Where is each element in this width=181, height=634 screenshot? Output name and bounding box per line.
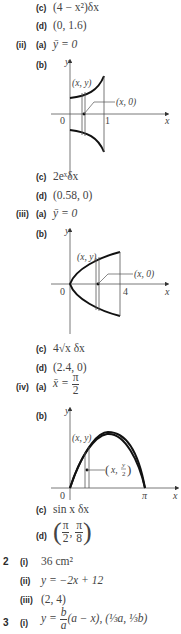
part-a-label: (a) xyxy=(36,382,46,392)
x-axis-label: x xyxy=(164,286,170,297)
graph-parabola-solid: y x 0 4 (x, y) (x, 0) xyxy=(45,224,175,344)
fraction-denominator: 2 xyxy=(72,385,80,397)
question-3-number: 3 xyxy=(3,617,9,628)
part-d-label: (d) xyxy=(36,21,47,31)
fraction-numerator: π xyxy=(75,520,83,533)
question-2-number: 2 xyxy=(3,556,9,567)
part-a-answer: ȳ = 0 xyxy=(53,207,77,219)
point-label: (x, y) xyxy=(77,252,97,263)
origin-label: 0 xyxy=(60,490,65,501)
part-i-label: (i) xyxy=(20,618,28,628)
part-d-label: (d) xyxy=(36,363,47,373)
pointer-label-den: 2 xyxy=(122,470,126,478)
part-c-label: (c) xyxy=(36,344,46,354)
pointer-label-x: x, xyxy=(110,465,118,475)
y-axis-label: y xyxy=(64,56,70,67)
origin-label: 0 xyxy=(60,115,65,126)
graph-exponential-solid: y x 0 1 (x, y) (x, 0) xyxy=(45,55,175,180)
origin-label: 0 xyxy=(60,286,65,297)
x-tick-label: 4 xyxy=(123,286,128,297)
part-a-label: (a) xyxy=(36,209,46,219)
part-d-answer: (0.58, 0) xyxy=(53,189,92,201)
part-i-answer: y = ba(a − x), (⅓a, ⅓b) xyxy=(41,607,147,631)
point-label: (x, y) xyxy=(72,433,92,444)
part-c-label: (c) xyxy=(36,505,46,515)
part-c-answer: 4√x δx xyxy=(53,342,85,354)
part-i-lhs: y = xyxy=(41,612,57,624)
y-axis-label: y xyxy=(64,225,70,236)
subquestion-ii-label: (ii) xyxy=(16,40,26,50)
point-label: (x, y) xyxy=(72,78,92,89)
part-a-lhs: x̄ = xyxy=(53,377,69,389)
part-iii-label: (iii) xyxy=(20,595,33,605)
graph-sine-arch: y x 0 π (x, y) ( x, y 2 ) xyxy=(45,404,181,504)
part-d-label: (d) xyxy=(36,191,47,201)
part-c-answer: 2eˣδx xyxy=(53,170,78,182)
part-c-answer: (4 − x²)δx xyxy=(53,1,99,13)
subquestion-iv-label: (iv) xyxy=(16,382,29,392)
part-d-label: (d) xyxy=(36,531,47,541)
y-axis-label: y xyxy=(64,405,70,416)
svg-text:): ) xyxy=(127,462,131,477)
pointer-label-num: y xyxy=(121,461,126,469)
part-d-answer: (0, 1.6) xyxy=(53,19,87,31)
pointer-label: (x, 0) xyxy=(116,97,136,108)
part-iii-answer: (2, 4) xyxy=(41,593,66,605)
part-i-answer: 36 cm² xyxy=(41,555,73,567)
fraction-numerator: π xyxy=(72,372,80,385)
part-c-label: (c) xyxy=(36,3,46,13)
part-c-label: (c) xyxy=(36,172,46,182)
part-i-rest: (a − x), (⅓a, ⅓b) xyxy=(67,612,147,624)
x-axis-label: x xyxy=(164,115,170,126)
x-tick-label: π xyxy=(142,490,148,501)
part-a-label: (a) xyxy=(36,40,46,50)
part-c-answer: sin x δx xyxy=(53,503,89,515)
svg-text:(: ( xyxy=(105,462,109,477)
pointer-label: (x, 0) xyxy=(134,269,154,280)
part-ii-answer: y = −2x + 12 xyxy=(41,574,103,586)
part-d-answer: (π2, π8) xyxy=(53,517,92,547)
x-tick-label: 1 xyxy=(105,115,110,126)
subquestion-iii-label: (iii) xyxy=(16,209,29,219)
fraction-denominator: 8 xyxy=(75,533,83,545)
part-a-answer: x̄ = π2 xyxy=(53,372,79,396)
part-ii-label: (ii) xyxy=(20,576,30,586)
part-a-answer: ȳ = 0 xyxy=(53,38,77,50)
x-axis-label: x xyxy=(172,490,178,501)
part-i-label: (i) xyxy=(20,557,28,567)
